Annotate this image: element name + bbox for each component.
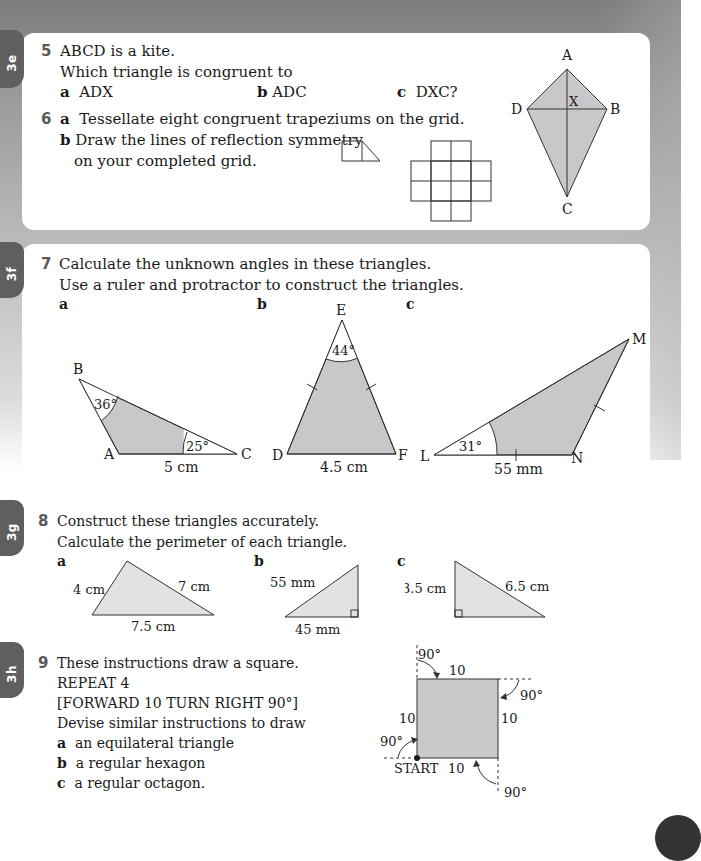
q7c-angle-l: 31° [459,439,482,454]
q7-line1: Calculate the unknown angles in these tr… [59,254,431,274]
q5-line2: Which triangle is congruent to [60,62,293,82]
q7a-vertex-c: C [241,446,252,462]
q7c-side-ln: 55 mm [494,461,543,477]
q7c-vertex-m: M [632,331,646,347]
q9-line4: Devise similar instructions to draw [57,713,306,733]
q9-angle-bottom-left: 90° [380,734,403,749]
q9-side-top: 10 [449,663,466,678]
q7b-vertex-d: D [272,447,283,463]
q5-part-b: b ADC [257,82,307,102]
q9-line2: REPEAT 4 [57,673,129,693]
tessellation-grid [410,140,494,224]
q7c-triangle: L M N 31° 55 mm [415,325,681,485]
section-tab-3f: 3f [0,250,24,298]
q7a-triangle: B A C 36° 25° 5 cm [60,355,270,480]
q8-line1: Construct these triangles accurately. [57,511,319,531]
q8c-side-hyp: 6.5 cm [505,579,549,594]
tab-label: 3h [5,665,19,683]
q6-part-a: a Tessellate eight congruent trapeziums … [60,109,464,129]
q7a-side-ac: 5 cm [164,459,198,475]
q9-angle-top-left: 90° [418,647,441,662]
q9-part-a: a an equilateral triangle [57,733,234,753]
question-number-8: 8 [38,511,48,531]
q8a-side-base: 7.5 cm [131,619,175,634]
q7-line2: Use a ruler and protractor to construct … [59,275,464,295]
q7a-vertex-a: A [103,446,115,462]
q9-part-c: c a regular octagon. [57,773,205,793]
q9-line3: [FORWARD 10 TURN RIGHT 90°] [57,693,298,713]
q8b-side-base: 45 mm [295,622,340,637]
q8b-triangle: 55 mm 45 mm [265,555,375,640]
tab-label: 3g [5,523,19,541]
q7a-angle-c: 25° [186,439,209,454]
q7b-side-df: 4.5 cm [320,459,368,475]
tab-label: 3f [5,267,19,282]
q9-side-right: 10 [501,711,518,726]
q5-part-c: c DXC? [397,82,458,102]
q7b-angle-e: 44° [332,343,355,358]
q8c-side-left: 3.5 cm [405,581,446,596]
q9-square-diagram: 90° 90° 90° 90° 10 10 10 10 START [370,630,570,830]
kite-vertex-d: D [511,101,522,117]
q7-part-a-label: a [59,296,68,312]
kite-vertex-a: A [561,47,573,63]
q7c-vertex-l: L [420,448,429,464]
q8a-side-left: 4 cm [73,582,105,597]
q7a-vertex-b: B [73,361,83,377]
q8-part-b-label: b [254,553,264,569]
q8-line2: Calculate the perimeter of each triangle… [57,532,347,552]
q9-line1: These instructions draw a square. [57,653,299,673]
q8a-side-right: 7 cm [178,579,210,594]
question-number-7: 7 [41,254,51,274]
question-number-5: 5 [41,41,51,61]
q9-part-b: b a regular hexagon [57,753,205,773]
kite-point-x: X [569,94,579,109]
trapezium-shape [340,138,385,164]
page-corner-marker [655,815,701,861]
q9-angle-bottom-right: 90° [504,785,527,800]
question-number-6: 6 [41,109,51,129]
kite-vertex-c: C [562,201,573,217]
q5-line1: ABCD is a kite. [60,41,175,61]
q8b-side-hyp: 55 mm [270,575,315,590]
kite-diagram: A B C D X [505,40,625,220]
q7b-triangle: E D F 44° 4.5 cm [265,300,415,480]
q9-side-bottom: 10 [448,761,465,776]
q5-part-a: a ADX [60,82,113,102]
q9-start-label: START [394,761,439,776]
q8c-triangle: 3.5 cm 6.5 cm [405,555,555,635]
question-number-9: 9 [38,653,48,673]
section-tab-3g: 3g [0,508,24,556]
q8a-triangle: 4 cm 7 cm 7.5 cm [65,555,225,635]
section-tab-3e: 3e [0,38,24,88]
q7c-vertex-n: N [571,450,583,466]
q6-part-b: b Draw the lines of reflection symmetry [60,130,363,150]
q7b-vertex-e: E [336,302,346,318]
q9-angle-top-right: 90° [520,688,543,703]
q9-side-left: 10 [399,711,416,726]
q6-part-b-cont: on your completed grid. [74,151,257,171]
tab-label: 3e [5,54,19,72]
q7a-angle-b: 36° [94,397,117,412]
q7b-vertex-f: F [398,447,408,463]
kite-vertex-b: B [610,101,620,117]
section-tab-3h: 3h [0,650,24,698]
